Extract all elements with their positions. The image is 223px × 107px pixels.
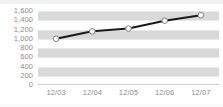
data-point-marker [198,12,204,18]
line-chart: 1,6001,4001,2001,0008006004002000 12/031… [0,0,223,107]
x-axis-tick-label: 12/04 [83,88,102,97]
series-line-group [38,11,219,85]
x-axis-line [38,84,219,85]
x-axis-tick-label: 12/05 [119,88,138,97]
plot-area [38,11,219,85]
x-axis-tick-label: 12/03 [46,88,65,97]
y-axis-tick-label: 0 [29,81,33,89]
x-axis-tick-label: 12/07 [191,88,210,97]
data-point-marker [90,29,96,35]
data-point-marker [53,36,59,42]
y-axis-tick-label: 400 [20,63,33,71]
x-axis-tick-labels: 12/0312/0412/0512/0612/07 [38,88,219,100]
data-point-marker [126,26,132,32]
bottom-edge-strip [0,104,223,107]
series-markers [53,12,203,41]
y-axis-tick-label: 600 [20,53,33,61]
y-axis-tick-label: 1,400 [14,16,33,24]
y-axis-tick-label: 800 [20,44,33,52]
y-axis-tick-label: 200 [20,72,33,80]
x-axis-tick-label: 12/06 [155,88,174,97]
y-axis-tick-label: 1,000 [14,35,33,43]
top-edge-strip [0,0,223,4]
y-axis-tick-label: 1,600 [14,7,33,15]
y-axis-tick-labels: 1,6001,4001,2001,0008006004002000 [0,11,36,85]
y-axis-tick-label: 1,200 [14,26,33,34]
data-point-marker [162,18,168,24]
